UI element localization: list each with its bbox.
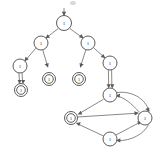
node-right-branch[interactable]: 1 xyxy=(81,36,95,50)
edge-cycleright-to-cycletop xyxy=(116,94,140,113)
graph-svg: 1 1 1 1 1 1 1 xyxy=(0,0,165,156)
node-left-inner[interactable]: 1 xyxy=(13,59,27,73)
node-accept-c[interactable]: 1 xyxy=(15,84,28,97)
node-accept-b[interactable]: 1 xyxy=(73,73,86,86)
edge-cyclebottom-to-cycleleft xyxy=(76,122,104,136)
node-cycle-left-accept[interactable]: 1 xyxy=(65,112,78,125)
diagram-canvas: 1 1 1 1 1 1 1 xyxy=(0,0,165,156)
edge-cycleleft-to-cycleright xyxy=(78,111,140,117)
edge-leftinner-to-accept-c xyxy=(18,73,26,84)
node-cycle-bottom[interactable]: 1 xyxy=(103,132,117,146)
node-left-branch[interactable]: 1 xyxy=(34,36,48,50)
edge-right-to-rightinner xyxy=(94,48,106,58)
edge-cycleright-to-cyclebottom xyxy=(116,125,149,143)
edge-root-to-left xyxy=(45,28,58,38)
edge-right-to-accept-b xyxy=(80,50,86,68)
scan-artifact xyxy=(70,1,76,5)
node-accept-a[interactable]: 1 xyxy=(43,73,56,86)
edge-cycletop-to-cycleright xyxy=(117,92,150,112)
edge-left-to-accept-a xyxy=(43,50,49,68)
edge-rightinner-to-cycletop xyxy=(107,70,115,88)
edge-left-to-leftinner xyxy=(24,48,36,61)
edge-root-to-right xyxy=(70,28,84,38)
node-right-inner[interactable]: 1 xyxy=(103,56,117,70)
node-cycle-top[interactable]: 1 xyxy=(103,88,117,102)
edge-cycletop-to-cycleleft xyxy=(78,99,104,114)
edge-cyclebottom-to-cycleright xyxy=(116,121,142,135)
node-root[interactable]: 1 xyxy=(57,16,72,31)
node-cycle-right[interactable]: 1 xyxy=(138,111,152,125)
